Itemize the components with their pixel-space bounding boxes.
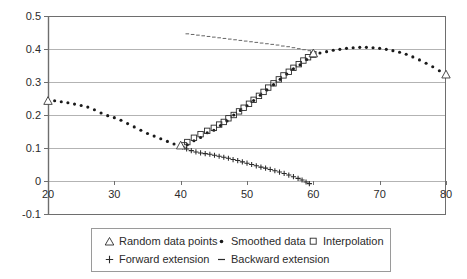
data-point (425, 62, 428, 65)
data-point (199, 136, 202, 139)
x-axis-label-50: 50 (241, 188, 253, 200)
data-point (272, 168, 277, 173)
series-random-data-points (44, 49, 450, 149)
data-point (53, 99, 56, 102)
data-point (332, 49, 335, 52)
data-point (166, 140, 169, 143)
data-point (418, 58, 421, 61)
legend-item-random-data-points[interactable]: Random data points (102, 234, 217, 248)
data-point (80, 104, 83, 107)
data-point (244, 161, 249, 166)
dash-icon (214, 252, 228, 266)
x-axis-label-30: 30 (108, 188, 120, 200)
series-backward-extension (186, 34, 317, 52)
data-point (100, 111, 103, 114)
x-axis-label-40: 40 (175, 188, 187, 200)
y-axis-label-0: 0 (35, 175, 41, 187)
data-point (358, 46, 361, 49)
legend-label: Smoothed data (231, 234, 306, 248)
data-point (325, 50, 328, 53)
data-point (212, 153, 217, 158)
data-point (217, 154, 222, 159)
data-point (411, 55, 414, 58)
data-point (405, 53, 408, 56)
data-point (230, 157, 235, 162)
data-point (106, 114, 109, 117)
x-axis-label-60: 60 (307, 188, 319, 200)
data-point (226, 156, 231, 161)
data-point (286, 172, 291, 177)
data-point (146, 132, 149, 135)
legend-row: Forward extensionBackward extension (92, 250, 390, 268)
data-point (235, 158, 240, 163)
legend-item-forward-extension[interactable]: Forward extension (102, 252, 210, 266)
legend-label: Random data points (119, 234, 217, 248)
data-point (258, 165, 263, 170)
data-point (86, 106, 89, 109)
triangle-icon (102, 234, 116, 248)
square-icon (306, 234, 320, 248)
x-axis-label-80: 80 (440, 188, 452, 200)
data-point (268, 167, 273, 172)
data-point (198, 150, 203, 155)
legend-label: Forward extension (119, 252, 210, 266)
data-point (371, 46, 374, 49)
data-point (203, 151, 208, 156)
data-point (292, 67, 295, 70)
data-point (277, 169, 282, 174)
data-point (254, 163, 259, 168)
data-point (291, 174, 296, 179)
data-point (66, 101, 69, 104)
legend-item-backward-extension[interactable]: Backward extension (214, 252, 329, 266)
y-axis-label-0.1: 0.1 (26, 142, 41, 154)
data-point (139, 129, 142, 132)
legend-label: Interpolation (323, 234, 384, 248)
series-forward-extension (180, 144, 312, 186)
legend-item-smoothed-data[interactable]: Smoothed data (214, 234, 306, 248)
data-point (352, 46, 355, 49)
y-axis-label--0.1: -0.1 (22, 208, 41, 220)
series-smoothed-data (46, 46, 447, 148)
data-point (232, 113, 235, 116)
data-point (119, 119, 122, 122)
data-point (338, 48, 341, 51)
data-point (249, 162, 254, 167)
chart-root: 0.50.40.30.20.10-0.120304050607080 Rando… (0, 0, 467, 279)
plus-icon (102, 252, 116, 266)
data-point (318, 51, 321, 54)
data-point (442, 70, 450, 78)
data-point (398, 51, 401, 54)
data-point (207, 152, 212, 157)
legend-item-interpolation[interactable]: Interpolation (306, 234, 384, 248)
data-point (221, 155, 226, 160)
data-point (385, 48, 388, 51)
data-point (60, 100, 63, 103)
data-point (391, 49, 394, 52)
data-point (126, 122, 129, 125)
data-point (193, 149, 198, 154)
data-point (263, 166, 268, 171)
y-axis-label-0.4: 0.4 (26, 43, 41, 55)
data-point (113, 116, 116, 119)
data-point (345, 47, 348, 50)
series-interpolation (181, 52, 316, 148)
data-point (172, 142, 175, 145)
dot-icon (214, 234, 228, 248)
data-point (153, 135, 156, 138)
data-point (431, 65, 434, 68)
data-point (240, 159, 245, 164)
data-point (44, 97, 52, 105)
data-point (365, 46, 368, 49)
x-axis-label-20: 20 (42, 188, 54, 200)
data-point (378, 47, 381, 50)
data-point (93, 108, 96, 111)
data-point (73, 103, 76, 106)
legend-row: Random data pointsSmoothed dataInterpola… (92, 232, 390, 250)
data-point (133, 125, 136, 128)
legend-label: Backward extension (231, 252, 329, 266)
y-axis-label-0.2: 0.2 (26, 109, 41, 121)
data-point (252, 99, 255, 102)
data-point (282, 171, 287, 176)
data-point (438, 69, 441, 72)
y-axis-label-0.3: 0.3 (26, 76, 41, 88)
